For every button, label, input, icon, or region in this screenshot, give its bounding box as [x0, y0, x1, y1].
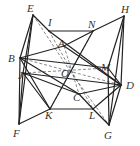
vertex-label-D: D [125, 79, 134, 91]
edge-CD [79, 85, 121, 94]
edge-DG [109, 85, 121, 125]
edge-NH [93, 16, 124, 31]
geometry-figure: EINHABOMJDCKLFG [0, 0, 140, 146]
vertex-label-A: A [57, 37, 65, 49]
vertex-label-H: H [120, 3, 130, 15]
vertex-label-I: I [47, 16, 53, 28]
vertex-label-E: E [26, 2, 34, 14]
edge-EI [33, 15, 49, 31]
vertex-label-O: O [61, 67, 69, 79]
vertex-label-B: B [8, 52, 15, 64]
vertex-label-N: N [87, 18, 96, 30]
edge-LG [93, 109, 109, 125]
vertex-label-L: L [88, 109, 95, 121]
vertex-label-G: G [104, 129, 112, 141]
vertex-label-F: F [12, 127, 20, 139]
vertex-label-M: M [100, 61, 111, 73]
vertex-label-C: C [73, 91, 81, 103]
vertex-label-K: K [44, 109, 53, 121]
